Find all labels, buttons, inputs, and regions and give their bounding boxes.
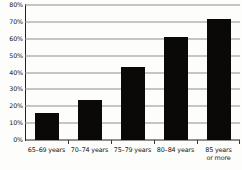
y-axis-tick-label: 50% (9, 52, 23, 58)
y-axis-tick-labels: 80% 70% 60% 50% 40% 30% 20% 10% 0% (0, 0, 24, 145)
y-axis-tick-label: 0% (13, 137, 23, 143)
x-axis-label-line: 75–79 years (114, 146, 151, 154)
x-axis-tick (154, 140, 155, 144)
x-axis-label-75-79: 75–79 years (110, 146, 155, 154)
x-axis-label-line: 80–84 years (157, 146, 194, 154)
bar-slot (68, 5, 111, 140)
x-axis-ticks (25, 140, 240, 145)
bar-slot (197, 5, 240, 140)
x-axis-category-labels: 65–69 years 70–74 years 75–79 years 80–8… (25, 146, 242, 170)
bar (121, 67, 145, 140)
y-axis-tick-label: 20% (9, 103, 23, 109)
bar (78, 100, 102, 141)
x-axis-label-85-or-more: 85 years or more (196, 146, 241, 163)
x-axis-tick (197, 140, 198, 144)
y-axis-tick-label: 30% (9, 86, 23, 92)
x-axis-label-65-69: 65–69 years (24, 146, 69, 154)
bar-slot (111, 5, 154, 140)
bar-chart: 80% 70% 60% 50% 40% 30% 20% 10% 0% (0, 0, 242, 170)
bar-slot (25, 5, 68, 140)
bar-slot (154, 5, 197, 140)
y-axis-tick-label: 10% (9, 120, 23, 126)
bar (207, 19, 231, 141)
x-axis-tick (239, 140, 240, 144)
y-axis-tick-label: 60% (9, 36, 23, 42)
x-axis-label-80-84: 80–84 years (153, 146, 198, 154)
bar-series (25, 5, 240, 140)
x-axis-label-line: or more (196, 154, 241, 162)
x-axis-tick (68, 140, 69, 144)
y-axis-tick-label: 70% (9, 19, 23, 25)
bar (35, 113, 59, 140)
y-axis-tick-label: 40% (9, 69, 23, 75)
plot-area (25, 5, 240, 140)
x-axis-label-70-74: 70–74 years (67, 146, 112, 154)
bar (164, 37, 188, 140)
x-axis-label-line: 85 years (205, 146, 232, 154)
x-axis-label-line: 65–69 years (28, 146, 65, 154)
x-axis-tick (111, 140, 112, 144)
x-axis-label-line: 70–74 years (71, 146, 108, 154)
y-axis-tick-label: 80% (9, 2, 23, 8)
